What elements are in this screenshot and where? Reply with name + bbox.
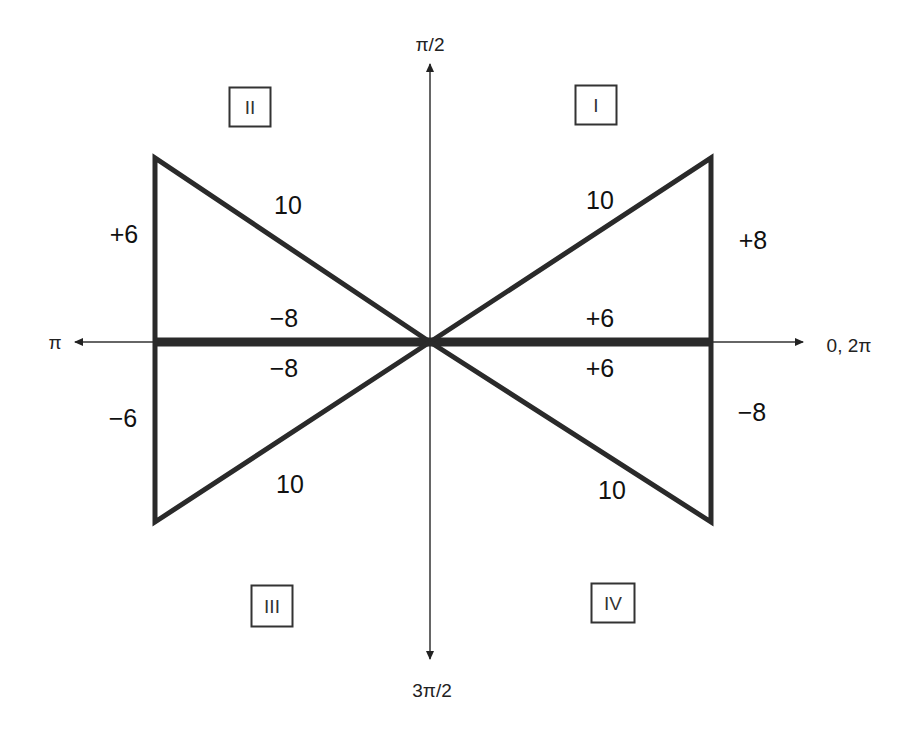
q1-horizontal-label: +6 [586, 306, 615, 331]
q2-vertical-label: +6 [110, 222, 139, 247]
q2-horizontal-label: −8 [270, 306, 299, 331]
quadrant-label-II: II [229, 87, 272, 128]
q1-vertical-label: +8 [739, 228, 768, 253]
q2-hypotenuse-label: 10 [274, 193, 302, 218]
quadrant-label-IV: IV [591, 583, 636, 624]
axis-label-right: 0, 2π [827, 336, 872, 355]
q4-vertical-label: −8 [738, 400, 767, 425]
axis-label-top: π/2 [416, 35, 445, 54]
axis-label-left: π [48, 333, 61, 352]
quadrant-label-III: III [251, 585, 294, 628]
quadrant-label-I: I [575, 85, 618, 126]
triangle-quadrant-I [430, 158, 711, 342]
q3-horizontal-label: −8 [270, 356, 299, 381]
axis-label-bottom: 3π/2 [412, 681, 452, 700]
q4-horizontal-label: +6 [586, 356, 615, 381]
triangle-quadrant-IV [430, 342, 711, 522]
q4-hypotenuse-label: 10 [598, 478, 626, 503]
q3-hypotenuse-label: 10 [276, 472, 304, 497]
diagram-canvas [0, 0, 921, 737]
q3-vertical-label: −6 [109, 406, 138, 431]
q1-hypotenuse-label: 10 [586, 188, 614, 213]
